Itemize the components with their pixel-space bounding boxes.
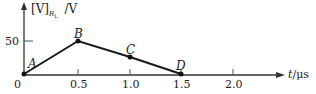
x-axis-arrow-icon bbox=[276, 72, 285, 78]
x-tick-label-1.5: 1.5 bbox=[173, 79, 191, 90]
x-axis-label: t/μs bbox=[288, 69, 309, 80]
y-axis-arrow-icon bbox=[21, 2, 27, 10]
point-label-c: C bbox=[126, 44, 135, 56]
x-tick-label-0: 0 bbox=[14, 79, 21, 90]
x-tick-label-1.0: 1.0 bbox=[122, 79, 140, 90]
x-tick-label-0.5: 0.5 bbox=[70, 79, 88, 90]
series-line bbox=[24, 41, 181, 74]
point-label-d: D bbox=[176, 60, 186, 72]
y-tick-label-50: 50 bbox=[5, 36, 19, 47]
x-tick-label-2.0: 2.0 bbox=[225, 79, 243, 90]
y-axis-label: [V]RL /V bbox=[31, 3, 77, 20]
point-label-b: B bbox=[74, 28, 83, 40]
point-label-a: A bbox=[28, 58, 37, 70]
point-a bbox=[22, 72, 27, 77]
